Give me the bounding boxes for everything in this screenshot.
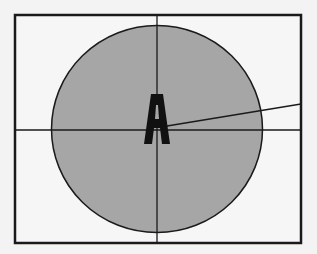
diagram-canvas: A <box>0 0 317 254</box>
